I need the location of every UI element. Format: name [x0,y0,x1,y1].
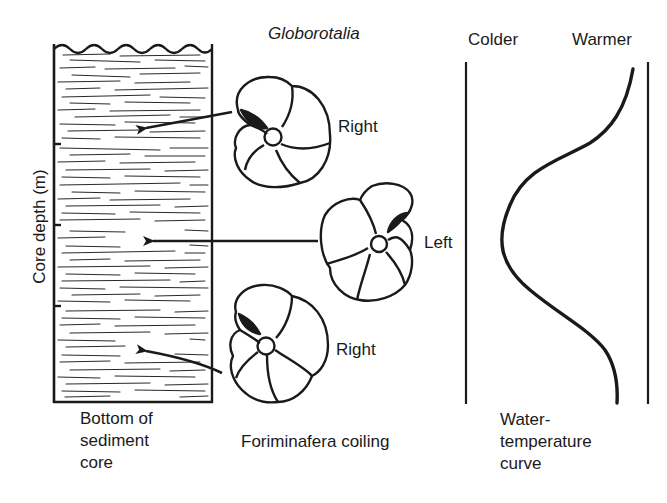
coiling-label-middle: Left [424,232,452,253]
core-caption-line-1: Bottom of [80,408,153,430]
core-depth-axis-label: Core depth (m) [29,142,50,312]
coiling-label-lower: Right [336,339,376,360]
temperature-curve-caption: Water- temperature curve [500,409,592,475]
sediment-layers [58,54,208,397]
temp-caption-line-2: temperature [500,431,592,453]
sediment-core [53,44,213,403]
foram-upper-right-coiling [235,77,330,187]
warmer-label: Warmer [572,29,632,50]
foraminifera-caption: Foriminafera coiling [241,431,389,452]
genus-title: Globorotalia [268,23,360,44]
water-temperature-curve [502,69,633,403]
foram-middle-left-coiling [321,183,413,300]
colder-label: Colder [468,29,518,50]
coiling-label-upper: Right [338,116,378,137]
core-caption-line-3: core [80,452,153,474]
core-bottom-caption: Bottom of sediment core [80,408,153,474]
arrow-upper [146,112,232,128]
temp-caption-line-3: curve [500,453,592,475]
core-caption-line-2: sediment [80,430,153,452]
foram-lower-right-coiling [230,285,328,402]
temp-caption-line-1: Water- [500,409,592,431]
foraminifera-coiling-diagram: Globorotalia Core depth (m) Bottom of se… [0,0,667,503]
temperature-panel [466,62,648,404]
sea-floor-wave [54,45,212,53]
